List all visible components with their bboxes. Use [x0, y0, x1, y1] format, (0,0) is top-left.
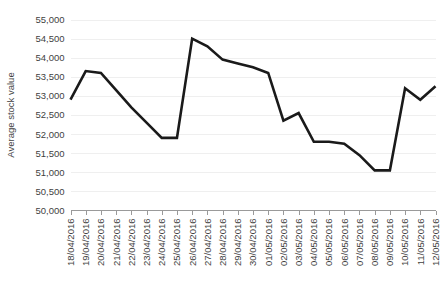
x-axis-tick-label: 08/05/2016 — [369, 219, 380, 267]
x-axis-tick-label: 25/04/2016 — [171, 219, 182, 267]
x-axis-tick-label: 11/05/2016 — [415, 219, 426, 266]
x-axis-tick-label: 01/05/2016 — [263, 219, 274, 267]
x-axis-tick-label: 02/05/2016 — [278, 219, 289, 267]
y-axis-tick-label: 52,500 — [35, 109, 64, 120]
x-axis-tick-label: 04/05/2016 — [308, 219, 319, 267]
x-axis-tick-label: 10/05/2016 — [399, 219, 410, 267]
y-axis-tick-label: 54,000 — [35, 52, 64, 63]
y-axis-tick-label: 53,500 — [35, 71, 64, 82]
x-axis-tick-label: 06/05/2016 — [339, 219, 350, 267]
y-axis-tick-label: 51,500 — [35, 148, 64, 159]
y-axis-tick-label: 54,500 — [35, 33, 64, 44]
line-chart: 50,00050,50051,00051,50052,00052,50053,0… — [0, 0, 444, 293]
x-axis-tick-labels: 18/04/201619/04/201620/04/201621/04/2016… — [65, 219, 441, 267]
x-axis-tick-label: 26/04/2016 — [187, 219, 198, 267]
y-axis-tick-labels: 50,00050,50051,00051,50052,00052,50053,0… — [35, 14, 64, 216]
y-axis-title: Average stock value — [5, 72, 16, 157]
x-axis-tick-label: 07/05/2016 — [354, 219, 365, 267]
gridlines — [71, 21, 436, 192]
x-axis-tick-label: 27/04/2016 — [202, 219, 213, 267]
x-axis-tick-label: 20/04/2016 — [95, 219, 106, 267]
x-axis-tick-label: 21/04/2016 — [111, 219, 122, 267]
x-axis-tick-label: 22/04/2016 — [126, 219, 137, 267]
y-axis-tick-label: 53,000 — [35, 90, 64, 101]
x-axis-tick-label: 09/05/2016 — [384, 219, 395, 267]
x-axis-tick-label: 12/05/2016 — [430, 219, 441, 267]
chart-canvas: 50,00050,50051,00051,50052,00052,50053,0… — [0, 0, 444, 293]
x-axis-tick-label: 23/04/2016 — [141, 219, 152, 267]
x-axis-tick-label: 03/05/2016 — [293, 219, 304, 267]
y-axis-tick-label: 50,000 — [35, 205, 64, 216]
y-axis-tick-label: 50,500 — [35, 186, 64, 197]
x-axis-tick-label: 24/04/2016 — [156, 219, 167, 267]
x-axis-tick-label: 18/04/2016 — [65, 219, 76, 267]
x-axis-tick-label: 05/05/2016 — [323, 219, 334, 267]
x-axis-tick-label: 28/04/2016 — [217, 219, 228, 267]
x-axis-tick-label: 29/04/2016 — [232, 219, 243, 267]
x-axis-tick-marks — [72, 211, 437, 215]
x-axis-tick-label: 30/04/2016 — [247, 219, 258, 267]
y-axis-tick-label: 51,000 — [35, 167, 64, 178]
y-axis-tick-label: 55,000 — [35, 14, 64, 25]
y-axis-tick-label: 52,000 — [35, 129, 64, 140]
x-axis-tick-label: 19/04/2016 — [80, 219, 91, 267]
